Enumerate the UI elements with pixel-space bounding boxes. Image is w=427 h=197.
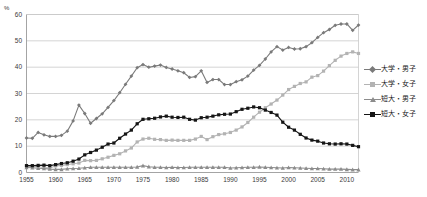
data-point-marker: [101, 157, 104, 160]
y-tick-label: 0: [8, 169, 22, 176]
data-point-marker: [37, 164, 40, 167]
data-point-marker: [66, 161, 69, 164]
data-point-marker: [89, 151, 92, 154]
data-point-marker: [304, 136, 307, 139]
data-point-marker: [118, 152, 121, 155]
data-point-marker: [345, 142, 348, 145]
y-tick-label: 10: [8, 142, 22, 149]
data-point-marker: [112, 154, 115, 157]
data-point-marker: [106, 156, 109, 159]
y-tick-label: 20: [8, 116, 22, 123]
data-point-marker: [287, 126, 290, 129]
legend-item-2[interactable]: 短大・男子: [364, 92, 426, 107]
data-point-marker: [287, 88, 290, 91]
data-point-marker: [194, 119, 197, 122]
data-point-marker: [240, 108, 243, 111]
data-point-marker: [304, 80, 307, 83]
series-0: [25, 22, 361, 140]
data-point-marker: [211, 78, 215, 82]
data-point-marker: [246, 121, 249, 124]
data-point-marker: [211, 135, 214, 138]
data-point-marker: [136, 140, 139, 143]
data-point-marker: [229, 112, 232, 115]
x-tick-label: 2000: [277, 176, 301, 183]
data-point-marker: [165, 139, 168, 142]
legend-item-label: 短大・女子: [381, 110, 416, 119]
data-point-marker: [48, 135, 52, 139]
x-tick-label: 1980: [160, 176, 184, 183]
data-point-marker: [328, 64, 331, 67]
data-point-marker: [217, 133, 220, 136]
x-tick-label: 1990: [218, 176, 242, 183]
data-point-marker: [310, 139, 313, 142]
data-point-marker: [147, 65, 151, 69]
data-point-marker: [328, 142, 331, 145]
x-tick-label: 1975: [131, 176, 155, 183]
chart-plot-svg: [0, 0, 427, 197]
data-point-marker: [234, 80, 238, 84]
data-point-marker: [235, 110, 238, 113]
legend-item-3[interactable]: 短大・女子: [364, 107, 426, 122]
x-tick-label: 1955: [15, 176, 39, 183]
data-point-marker: [106, 142, 109, 145]
data-point-marker: [322, 141, 325, 144]
legend-item-0[interactable]: 大学・男子: [364, 62, 426, 77]
data-point-marker: [60, 162, 63, 165]
data-point-marker: [171, 139, 174, 142]
data-point-marker: [48, 164, 51, 167]
data-point-marker: [205, 116, 208, 119]
x-tick-label: 2005: [306, 176, 330, 183]
chart-series-layer: [24, 22, 360, 171]
data-point-marker: [170, 67, 174, 71]
data-point-marker: [77, 157, 80, 160]
data-point-marker: [54, 163, 57, 166]
data-point-marker: [229, 131, 232, 134]
chart-container: % 0102030405060 195519601965197019751980…: [0, 0, 427, 197]
legend-marker-icon: [364, 65, 381, 75]
data-point-marker: [200, 116, 203, 119]
legend-item-label: 短大・男子: [381, 95, 416, 104]
data-point-marker: [124, 132, 127, 135]
data-point-marker: [228, 83, 232, 87]
data-point-marker: [281, 93, 284, 96]
data-point-marker: [188, 118, 191, 121]
data-point-marker: [322, 70, 325, 73]
y-tick-label: 50: [8, 37, 22, 44]
data-point-marker: [258, 111, 261, 114]
data-point-marker: [159, 63, 163, 67]
data-point-marker: [252, 105, 255, 108]
data-point-marker: [159, 115, 162, 118]
data-point-marker: [130, 146, 133, 149]
data-point-marker: [351, 144, 354, 147]
data-point-marker: [83, 153, 86, 156]
x-tick-label: 1995: [247, 176, 271, 183]
legend-marker-icon: [364, 80, 381, 90]
data-point-marker: [205, 138, 208, 141]
data-point-marker: [217, 113, 220, 116]
data-point-marker: [357, 52, 360, 55]
data-point-marker: [147, 117, 150, 120]
data-point-marker: [246, 107, 249, 110]
data-point-marker: [31, 164, 34, 167]
data-point-marker: [42, 133, 46, 137]
y-tick-label: 60: [8, 11, 22, 18]
data-point-marker: [182, 139, 185, 142]
data-point-marker: [258, 106, 261, 109]
y-tick-label: 40: [8, 63, 22, 70]
series-1: [25, 50, 360, 169]
data-point-marker: [112, 141, 115, 144]
data-point-marker: [176, 69, 180, 73]
data-point-marker: [235, 129, 238, 132]
data-point-marker: [270, 102, 273, 105]
legend-item-label: 大学・男子: [381, 65, 416, 74]
legend-item-1[interactable]: 大学・女子: [364, 77, 426, 92]
data-point-marker: [95, 159, 98, 162]
x-tick-label: 1970: [102, 176, 126, 183]
data-point-marker: [339, 22, 343, 26]
data-point-marker: [211, 115, 214, 118]
legend-marker-icon: [364, 110, 381, 120]
data-point-marker: [136, 122, 139, 125]
data-point-marker: [298, 47, 302, 51]
data-point-marker: [89, 159, 92, 162]
data-point-marker: [223, 113, 226, 116]
